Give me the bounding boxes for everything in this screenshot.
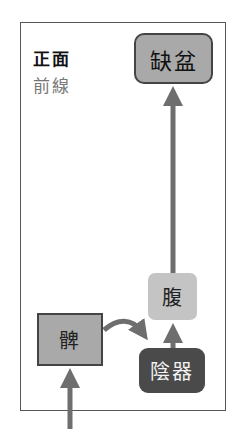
node-fu: 腹 — [148, 273, 197, 320]
node-yinqi: 陰器 — [139, 348, 205, 393]
node-quepen: 缺盆 — [134, 33, 213, 84]
node-bi: 髀 — [37, 313, 103, 366]
arrow-bi-to-yinqi — [104, 321, 142, 332]
